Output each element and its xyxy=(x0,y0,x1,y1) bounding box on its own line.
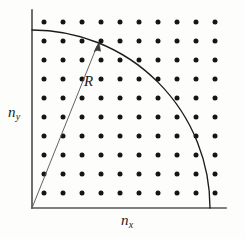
lattice-dot xyxy=(194,20,199,25)
lattice-dot xyxy=(80,115,85,120)
lattice-dot xyxy=(42,134,47,139)
lattice-dot xyxy=(156,153,161,158)
lattice-dot xyxy=(156,20,161,25)
lattice-dot xyxy=(118,134,123,139)
lattice-dot xyxy=(175,77,180,82)
lattice-dot xyxy=(118,115,123,120)
x-axis-label-base: n xyxy=(121,212,129,228)
lattice-dot xyxy=(80,58,85,63)
lattice-dot xyxy=(99,58,104,63)
lattice-dot xyxy=(61,153,66,158)
lattice-dot xyxy=(137,153,142,158)
lattice-dot xyxy=(137,96,142,101)
lattice-dot xyxy=(118,77,123,82)
lattice-dot xyxy=(42,191,47,196)
lattice-dot xyxy=(213,58,218,63)
lattice-dot xyxy=(61,58,66,63)
lattice-quarter-circle-figure: ny nx R xyxy=(0,0,245,239)
lattice-dot xyxy=(80,172,85,177)
lattice-dot xyxy=(137,172,142,177)
lattice-dot xyxy=(194,153,199,158)
lattice-dot xyxy=(194,191,199,196)
lattice-dot xyxy=(80,153,85,158)
lattice-dot xyxy=(99,20,104,25)
lattice-dots-group xyxy=(42,20,218,196)
lattice-dot xyxy=(194,58,199,63)
lattice-dot xyxy=(213,20,218,25)
radius-label: R xyxy=(84,74,93,89)
lattice-dot xyxy=(213,153,218,158)
lattice-dot xyxy=(156,115,161,120)
lattice-dot xyxy=(213,172,218,177)
lattice-dot xyxy=(194,39,199,44)
lattice-dot xyxy=(99,172,104,177)
lattice-dot xyxy=(42,153,47,158)
lattice-dot xyxy=(175,191,180,196)
lattice-dot xyxy=(61,191,66,196)
lattice-dot xyxy=(175,96,180,101)
lattice-dot xyxy=(118,172,123,177)
lattice-dot xyxy=(194,77,199,82)
lattice-dot xyxy=(137,115,142,120)
lattice-dot xyxy=(99,96,104,101)
lattice-dot xyxy=(118,153,123,158)
lattice-dot xyxy=(175,153,180,158)
lattice-dot xyxy=(42,77,47,82)
lattice-dot xyxy=(213,115,218,120)
lattice-dot xyxy=(156,134,161,139)
lattice-dot xyxy=(213,191,218,196)
lattice-dot xyxy=(175,115,180,120)
lattice-dot xyxy=(42,58,47,63)
radius-arrow-shaft xyxy=(32,46,97,208)
lattice-dot xyxy=(175,20,180,25)
lattice-dot xyxy=(99,115,104,120)
lattice-dot xyxy=(118,39,123,44)
lattice-dot xyxy=(137,134,142,139)
lattice-dot xyxy=(194,115,199,120)
lattice-dot xyxy=(118,58,123,63)
lattice-dot xyxy=(213,77,218,82)
lattice-dot xyxy=(194,96,199,101)
lattice-dot xyxy=(61,172,66,177)
lattice-dot xyxy=(175,58,180,63)
lattice-dot xyxy=(118,191,123,196)
lattice-dot xyxy=(42,115,47,120)
lattice-dot xyxy=(175,39,180,44)
lattice-dot xyxy=(80,134,85,139)
lattice-dot xyxy=(42,39,47,44)
y-axis-label-subscript: y xyxy=(16,111,20,122)
lattice-dot xyxy=(137,39,142,44)
lattice-dot xyxy=(156,191,161,196)
y-axis-label-base: n xyxy=(8,104,16,120)
lattice-dot xyxy=(194,172,199,177)
lattice-dot xyxy=(99,191,104,196)
lattice-dot xyxy=(213,134,218,139)
y-axis-label: ny xyxy=(8,104,20,122)
x-axis-label: nx xyxy=(121,212,133,230)
lattice-dot xyxy=(118,20,123,25)
figure-canvas xyxy=(0,0,245,239)
lattice-dot xyxy=(175,134,180,139)
lattice-dot xyxy=(61,77,66,82)
lattice-dot xyxy=(61,39,66,44)
lattice-dot xyxy=(137,191,142,196)
lattice-dot xyxy=(80,20,85,25)
lattice-dot xyxy=(99,134,104,139)
lattice-dot xyxy=(80,191,85,196)
lattice-dot xyxy=(213,39,218,44)
lattice-dot xyxy=(80,39,85,44)
lattice-dot xyxy=(61,20,66,25)
lattice-dot xyxy=(61,115,66,120)
lattice-dot xyxy=(137,20,142,25)
lattice-dot xyxy=(80,96,85,101)
lattice-dot xyxy=(42,20,47,25)
lattice-dot xyxy=(42,96,47,101)
x-axis-label-subscript: x xyxy=(129,219,133,230)
lattice-dot xyxy=(213,96,218,101)
lattice-dot xyxy=(156,172,161,177)
lattice-dot xyxy=(61,96,66,101)
lattice-dot xyxy=(99,153,104,158)
lattice-dot xyxy=(137,77,142,82)
radius-arrow-group xyxy=(32,42,101,208)
lattice-dot xyxy=(156,96,161,101)
